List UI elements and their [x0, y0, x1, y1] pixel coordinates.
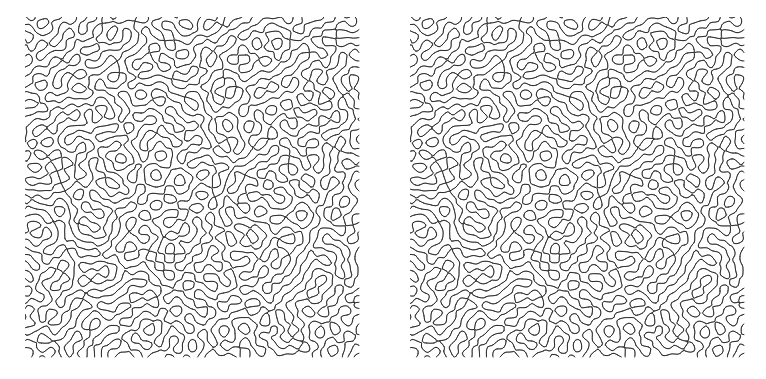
labyrinthine-pattern-left [25, 17, 361, 359]
panel-right [410, 17, 746, 359]
panel-left [25, 17, 361, 359]
labyrinthine-pattern-right [410, 17, 746, 359]
figure-container [0, 0, 766, 379]
